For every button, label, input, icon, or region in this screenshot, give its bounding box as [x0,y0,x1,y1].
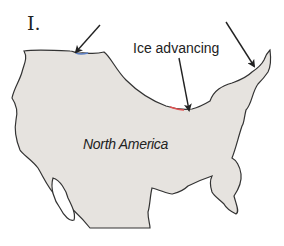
arrow-ice-advancing [179,58,189,110]
arrow-northwest [76,25,100,52]
diagram-panel: I. Ice advancing North America [0,0,284,246]
panel-label: I. [27,12,41,34]
north-america-label: North America [83,136,168,152]
ice-advancing-label: Ice advancing [133,40,219,56]
arrow-northeast [226,22,254,66]
north-america-map [0,0,284,246]
